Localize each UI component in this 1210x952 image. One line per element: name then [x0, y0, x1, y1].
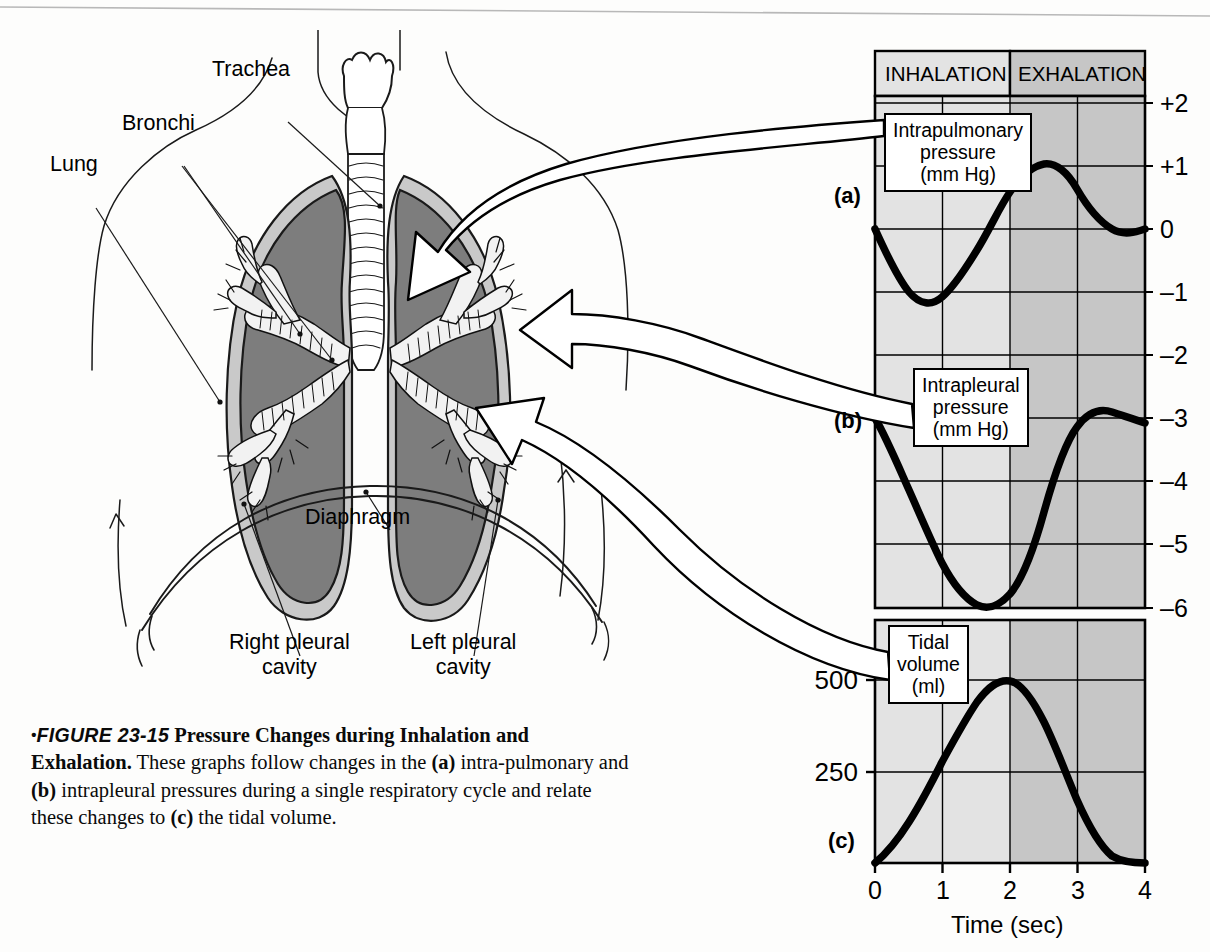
callout-arrow-intrapulmonary [408, 120, 884, 300]
ytick-plus2: +2 [1160, 89, 1189, 118]
axis-ticks-x [875, 863, 1145, 873]
ytick-minus6: –6 [1160, 594, 1188, 623]
panel-letter-a: (a) [834, 183, 861, 209]
callout-arrow-tidal-volume [476, 398, 890, 680]
xtick-4: 4 [1130, 876, 1160, 905]
panel-letter-b: (b) [834, 408, 862, 434]
callout-tidal-volume: Tidal volume (ml) [888, 625, 969, 704]
ytick-minus2: –2 [1160, 341, 1188, 370]
panel-letter-c: (c) [828, 828, 855, 854]
ytick-volume-500: 500 [784, 665, 858, 696]
ytick-minus5: –5 [1160, 530, 1188, 559]
figure-page: Trachea Bronchi Lung Diaphragm Right ple… [0, 0, 1210, 952]
ytick-zero: 0 [1160, 215, 1174, 244]
band-label-inhalation: INHALATION [885, 62, 1007, 86]
callout-intrapleural-pressure: Intrapleural pressure (mm Hg) [913, 368, 1029, 447]
ytick-minus3: –3 [1160, 404, 1188, 433]
xtick-0: 0 [860, 876, 890, 905]
xtick-1: 1 [928, 876, 958, 905]
caption-text-5: the tidal volume. [193, 806, 336, 828]
xtick-2: 2 [995, 876, 1025, 905]
figure-caption: •FIGURE 23-15 Pressure Changes during In… [31, 722, 631, 831]
caption-tag-a: (a) [431, 751, 455, 773]
callout-intrapulmonary-pressure: Intrapulmonary pressure (mm Hg) [884, 113, 1032, 192]
figure-number: •FIGURE 23-15 [31, 724, 169, 746]
band-label-exhalation: EXHALATION [1018, 62, 1146, 86]
ytick-plus1: +1 [1160, 152, 1189, 181]
x-axis-title: Time (sec) [951, 911, 1063, 939]
caption-tag-c: (c) [170, 806, 193, 828]
xtick-3: 3 [1063, 876, 1093, 905]
ytick-minus1: –1 [1160, 278, 1188, 307]
caption-text-1: These graphs follow changes in the [132, 751, 427, 773]
caption-title-line1: Pressure Changes during Inhalation [174, 724, 491, 746]
ytick-minus4: –4 [1160, 467, 1188, 496]
caption-text-2: intra-pulmonary and [455, 751, 628, 773]
caption-tag-b: (b) [31, 779, 56, 801]
caption-text-3: intrapleural pressures during [56, 779, 296, 801]
ytick-volume-250: 250 [784, 757, 858, 788]
